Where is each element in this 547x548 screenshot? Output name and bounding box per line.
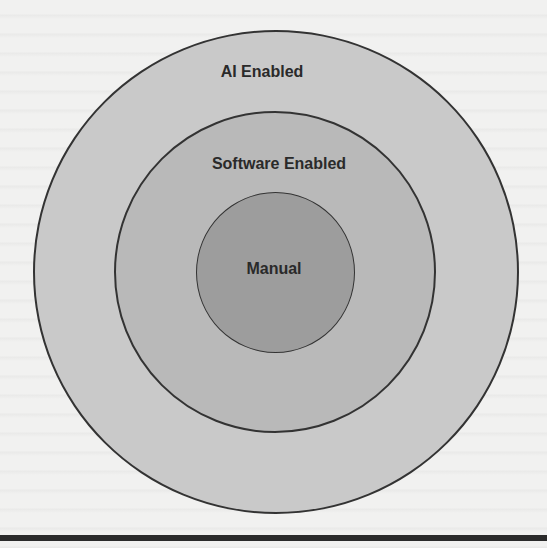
label-ai-enabled: AI Enabled [221, 63, 304, 81]
label-manual: Manual [246, 260, 301, 278]
horizontal-rule [0, 535, 547, 541]
label-software-enabled: Software Enabled [212, 155, 346, 173]
